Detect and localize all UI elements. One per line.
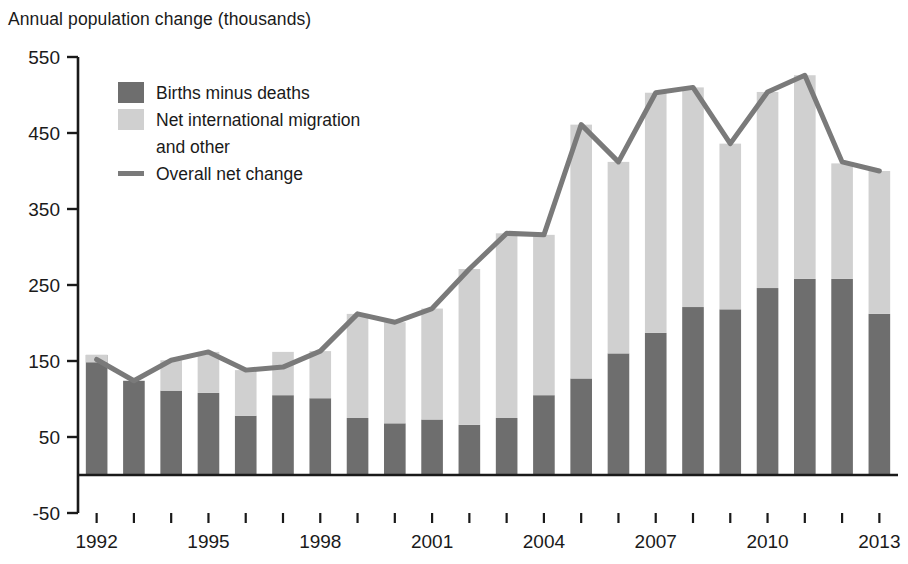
bar-segment-births-minus-deaths bbox=[496, 418, 518, 475]
legend-swatch-births-minus-deaths bbox=[118, 82, 144, 103]
bar-segment-net-international-migration bbox=[272, 352, 294, 395]
bar-segment-net-international-migration bbox=[869, 171, 891, 314]
bars-layer bbox=[86, 75, 890, 475]
bar-segment-births-minus-deaths bbox=[384, 423, 406, 475]
bar-segment-births-minus-deaths bbox=[794, 279, 816, 475]
bar-segment-net-international-migration bbox=[757, 92, 779, 288]
y-axis-tick-label: 350 bbox=[28, 199, 60, 220]
bar-segment-net-international-migration bbox=[608, 162, 630, 354]
bar-segment-births-minus-deaths bbox=[645, 333, 667, 475]
y-axis-tick-label: 150 bbox=[28, 351, 60, 372]
bar-segment-births-minus-deaths bbox=[272, 395, 294, 475]
bar-segment-net-international-migration bbox=[496, 233, 518, 418]
x-axis-tick-label: 2013 bbox=[858, 531, 900, 552]
bar-segment-births-minus-deaths bbox=[198, 393, 220, 475]
bar-segment-births-minus-deaths bbox=[869, 314, 891, 475]
bar-segment-births-minus-deaths bbox=[682, 307, 704, 475]
bar-segment-net-international-migration bbox=[459, 269, 481, 425]
y-axis-tick-label: 550 bbox=[28, 47, 60, 68]
legend-label: Overall net change bbox=[156, 164, 303, 184]
bar-segment-births-minus-deaths bbox=[235, 416, 257, 475]
chart-legend: Births minus deathsNet international mig… bbox=[118, 82, 360, 184]
bar-segment-net-international-migration bbox=[533, 235, 555, 395]
y-axis-tick-label: 50 bbox=[39, 427, 60, 448]
legend-label: Births minus deaths bbox=[156, 83, 310, 103]
bar-segment-births-minus-deaths bbox=[831, 279, 853, 475]
bar-segment-births-minus-deaths bbox=[459, 425, 481, 475]
bar-segment-births-minus-deaths bbox=[719, 309, 741, 475]
x-axis-tick-label: 1995 bbox=[187, 531, 229, 552]
bar-segment-net-international-migration bbox=[384, 322, 406, 423]
y-axis-tick-label: -50 bbox=[33, 503, 60, 524]
bar-segment-net-international-migration bbox=[794, 75, 816, 279]
bar-segment-net-international-migration bbox=[421, 309, 443, 420]
bar-segment-births-minus-deaths bbox=[347, 418, 369, 475]
annual-population-change-chart: Annual population change (thousands) 550… bbox=[0, 0, 908, 564]
bar-segment-births-minus-deaths bbox=[421, 420, 443, 475]
bar-segment-net-international-migration bbox=[235, 370, 257, 416]
legend-label: Net international migration bbox=[156, 110, 360, 130]
x-axis-tick-label: 2001 bbox=[411, 531, 453, 552]
y-axis: 55045035025015050-50 bbox=[28, 47, 78, 524]
bar-segment-net-international-migration bbox=[645, 93, 667, 333]
y-axis-tick-label: 250 bbox=[28, 275, 60, 296]
bar-segment-net-international-migration bbox=[347, 314, 369, 418]
bar-segment-net-international-migration bbox=[719, 144, 741, 310]
bar-segment-births-minus-deaths bbox=[533, 395, 555, 475]
bar-segment-births-minus-deaths bbox=[570, 378, 592, 475]
bar-segment-births-minus-deaths bbox=[608, 353, 630, 475]
bar-segment-net-international-migration bbox=[309, 351, 331, 398]
bar-segment-births-minus-deaths bbox=[86, 355, 108, 475]
bar-segment-net-international-migration bbox=[570, 125, 592, 379]
bar-segment-births-minus-deaths bbox=[757, 288, 779, 475]
chart-plot-area: 55045035025015050-50 1992199519982001200… bbox=[0, 0, 908, 564]
x-axis-tick-label: 2004 bbox=[523, 531, 566, 552]
legend-swatch-net-international-migration bbox=[118, 109, 144, 130]
bar-segment-births-minus-deaths bbox=[160, 391, 182, 475]
x-axis-tick-label: 2007 bbox=[635, 531, 677, 552]
legend-label-continued: and other bbox=[156, 137, 230, 157]
bar-segment-births-minus-deaths bbox=[123, 381, 145, 475]
x-axis-tick-label: 2010 bbox=[746, 531, 788, 552]
bar-segment-births-minus-deaths bbox=[309, 398, 331, 475]
x-axis-tick-label: 1998 bbox=[299, 531, 341, 552]
y-axis-tick-label: 450 bbox=[28, 123, 60, 144]
bar-segment-net-international-migration bbox=[831, 163, 853, 279]
bar-segment-net-international-migration bbox=[682, 87, 704, 307]
x-axis-tick-label: 1992 bbox=[75, 531, 117, 552]
x-axis: 19921995199820012004200720102013 bbox=[75, 513, 900, 552]
